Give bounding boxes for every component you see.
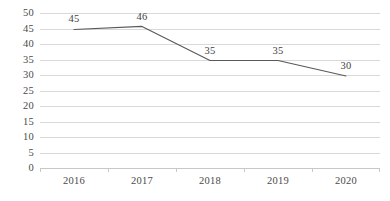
data-label: 30 [331, 60, 361, 71]
y-axis-tick-label: 45 [4, 24, 34, 34]
data-label: 35 [263, 45, 293, 56]
x-axis-tick-label: 2019 [244, 175, 312, 187]
x-axis-line [40, 168, 380, 169]
x-axis-tick [108, 168, 109, 172]
x-axis-tick [176, 168, 177, 172]
y-axis-tick-label: 35 [4, 55, 34, 65]
gridline [40, 153, 380, 154]
data-label: 45 [59, 13, 89, 24]
y-axis-tick-label: 40 [4, 39, 34, 49]
gridline [40, 13, 380, 14]
gridline [40, 29, 380, 30]
line-chart: 50 45 40 35 30 25 20 15 10 5 0 2016 2017… [0, 0, 390, 201]
x-axis-tick-label: 2020 [312, 175, 380, 187]
y-axis-tick-label: 10 [4, 132, 34, 142]
data-label: 35 [195, 45, 225, 56]
y-axis-tick-label: 0 [4, 163, 34, 173]
x-axis-tick-label: 2018 [176, 175, 244, 187]
x-axis-tick [244, 168, 245, 172]
gridline [40, 106, 380, 107]
y-axis-tick-label: 15 [4, 117, 34, 127]
data-label: 46 [127, 11, 157, 22]
y-axis-tick-label: 30 [4, 70, 34, 80]
gridline [40, 137, 380, 138]
x-axis-tick [312, 168, 313, 172]
gridline [40, 122, 380, 123]
x-axis-tick [379, 168, 380, 172]
plot-area [40, 13, 380, 168]
gridline [40, 60, 380, 61]
gridline [40, 75, 380, 76]
x-axis-tick-label: 2016 [40, 175, 108, 187]
y-axis-tick-label: 5 [4, 148, 34, 158]
y-axis-tick-label: 20 [4, 101, 34, 111]
x-axis-tick-label: 2017 [108, 175, 176, 187]
y-axis-tick-label: 25 [4, 86, 34, 96]
y-axis-tick-label: 50 [4, 8, 34, 18]
x-axis-tick [40, 168, 41, 172]
gridline [40, 91, 380, 92]
